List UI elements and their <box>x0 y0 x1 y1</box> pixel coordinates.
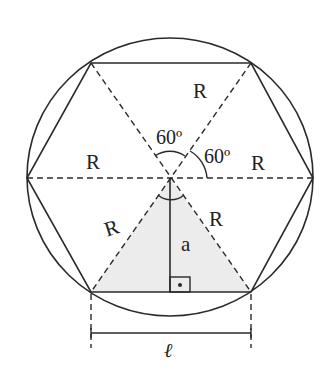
label-radius-right: R <box>251 151 265 175</box>
angle-arc-top <box>155 151 185 156</box>
label-radius-lower-left: R <box>101 214 122 241</box>
label-angle-top: 60º <box>156 126 182 148</box>
label-radius-left: R <box>86 150 100 174</box>
label-radius-lower-right: R <box>209 207 223 231</box>
label-apothem: a <box>181 232 191 256</box>
label-angle-right: 60º <box>204 145 230 167</box>
label-radius-top: R <box>193 79 207 103</box>
hexagon-diagram: R R R R R 60º 60º a ℓ <box>0 0 333 378</box>
label-side: ℓ <box>164 339 173 361</box>
right-angle-dot <box>178 283 182 287</box>
